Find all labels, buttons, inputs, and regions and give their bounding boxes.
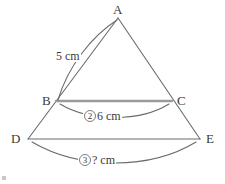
geometry-figure: ABCDE 5 cm26 cm3? cm — [0, 0, 225, 184]
vertex-label-d: D — [11, 132, 20, 145]
circle-number-text: 2 — [84, 110, 96, 122]
segment-A-E — [118, 18, 200, 139]
vertex-label-a: A — [113, 3, 122, 16]
vertex-label-e: E — [206, 132, 214, 145]
measure-ab-value: 5 cm — [56, 49, 80, 63]
measure-bc-label: 26 cm — [83, 110, 122, 122]
vertex-label-c: C — [177, 94, 186, 107]
measure-arcs-group — [32, 20, 196, 163]
scan-artifact — [2, 176, 6, 180]
measure-de-label: 3? cm — [78, 154, 116, 166]
vertex-label-b: B — [42, 94, 51, 107]
circled-number-2-icon: 2 — [84, 110, 96, 122]
measure-bc-value: 6 cm — [97, 109, 121, 123]
measure-ab-label: 5 cm — [55, 50, 81, 62]
circled-number-3-icon: 3 — [79, 154, 91, 166]
circle-number-text: 3 — [79, 154, 91, 166]
measure-de-value: ? cm — [92, 153, 115, 167]
